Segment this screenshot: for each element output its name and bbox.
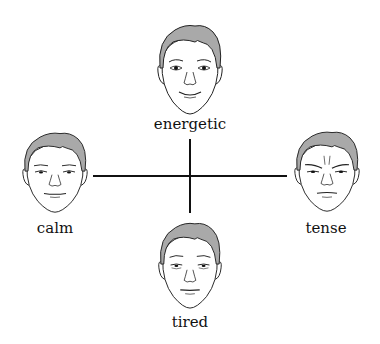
label-energetic: energetic bbox=[140, 115, 240, 133]
vertical-axis-line bbox=[189, 139, 191, 213]
face-energetic bbox=[155, 22, 225, 116]
calm-face-icon bbox=[20, 130, 90, 214]
face-calm bbox=[20, 130, 90, 214]
label-tired: tired bbox=[140, 313, 240, 331]
energetic-face-icon bbox=[155, 22, 225, 116]
tense-face-icon bbox=[292, 129, 362, 213]
label-calm: calm bbox=[5, 219, 105, 237]
face-tired bbox=[156, 220, 224, 310]
tired-face-icon bbox=[156, 220, 224, 310]
label-tense: tense bbox=[276, 219, 376, 237]
face-tense bbox=[292, 129, 362, 213]
